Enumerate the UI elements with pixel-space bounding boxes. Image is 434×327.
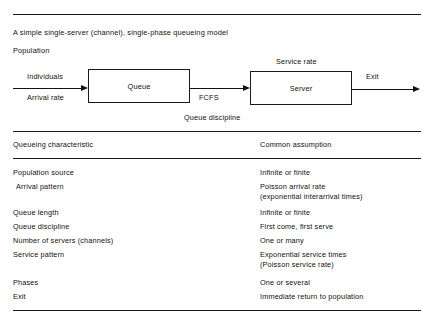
queue-discipline-caption: Queue discipline [184,113,240,122]
arrival-rate-label: Arrival rate [27,93,64,102]
table-header-characteristic: Queueing characteristic [13,140,93,150]
exit-arrow-line [352,89,414,90]
table-row: Number of servers (channels) [13,236,113,246]
table-row: Population source [13,168,74,178]
table-row: Infinite or finite [260,208,310,218]
figure-title: A simple single-server (channel), single… [13,28,228,37]
table-row: Poisson arrival rate (exponential intera… [260,182,363,202]
fcfs-arrow-head [243,85,250,91]
arrival-arrow-line [13,88,83,89]
fcfs-label: FCFS [199,93,219,102]
figure-page: A simple single-server (channel), single… [0,0,434,327]
table-row: Queue length [13,208,59,218]
queue-box: Queue [88,69,190,103]
server-box: Server [250,71,352,105]
table-row: Service pattern [13,250,64,260]
table-row: Queue discipline [13,222,69,232]
table-bottom-divider [13,310,421,311]
exit-arrow-head [413,86,420,92]
server-box-label: Server [290,84,313,93]
table-row: Arrival pattern [16,182,64,192]
table-row: Exponential service times (Poisson servi… [260,250,347,270]
table-row: Infinite or finite [260,168,310,178]
table-top-divider [13,131,421,132]
table-row: First come, first serve [260,222,333,232]
table-row: One or many [260,236,304,246]
table-header-divider [13,158,421,159]
table-row: Immediate return to population [260,292,363,302]
table-row: Phases [13,278,38,288]
exit-label: Exit [366,72,379,81]
service-rate-label: Service rate [276,57,317,66]
arrival-arrow-head [81,85,88,91]
individuals-label: Individuals [27,72,63,81]
queue-box-label: Queue [128,82,151,91]
table-header-assumption: Common assumption [260,140,332,150]
fcfs-arrow-line [190,88,244,89]
top-divider [13,14,421,15]
population-label: Population [13,46,49,55]
table-row: Exit [13,292,26,302]
table-row: One or several [260,278,310,288]
